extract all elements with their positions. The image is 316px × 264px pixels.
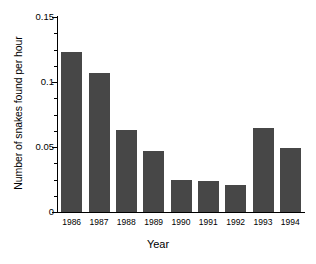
bar — [143, 151, 164, 212]
y-axis-minor-tick — [54, 131, 57, 132]
bar — [225, 185, 246, 212]
y-axis-line — [57, 16, 58, 213]
bar — [89, 73, 110, 212]
y-axis-tick-label: 0.15 — [36, 11, 55, 22]
x-axis-tick-label: 1994 — [270, 217, 310, 227]
y-axis-minor-tick — [54, 180, 57, 181]
y-axis-minor-tick — [54, 66, 57, 67]
bar — [198, 181, 219, 212]
bar — [280, 148, 301, 212]
bar-chart-figure: Number of snakes found per hour 00.050.1… — [0, 0, 316, 264]
bar — [171, 180, 192, 213]
bar — [116, 130, 137, 212]
x-axis-line — [57, 212, 305, 213]
y-axis-tick-label: 0.05 — [36, 141, 55, 152]
bar — [61, 52, 82, 212]
x-axis-title: Year — [0, 238, 316, 250]
y-axis-minor-tick — [54, 196, 57, 197]
bar — [253, 128, 274, 213]
y-axis-minor-tick — [54, 163, 57, 164]
y-axis-minor-tick — [54, 50, 57, 51]
y-axis-minor-tick — [54, 33, 57, 34]
y-axis-title: Number of snakes found per hour — [12, 13, 24, 213]
y-axis-tick-label: 0.1 — [41, 76, 54, 87]
y-axis-minor-tick — [54, 115, 57, 116]
y-axis-minor-tick — [54, 98, 57, 99]
y-axis-tick-label: 0 — [49, 206, 54, 217]
